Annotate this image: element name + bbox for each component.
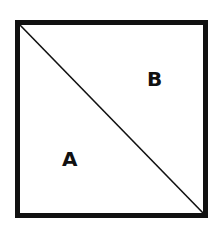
region-label-b: B — [147, 67, 162, 91]
region-label-a: A — [62, 147, 78, 171]
square-diagram: B A — [0, 0, 222, 231]
